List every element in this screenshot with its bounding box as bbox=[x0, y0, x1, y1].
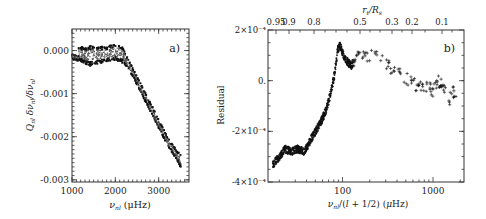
x-tick-label-a: 2000 bbox=[104, 186, 127, 196]
x-tick-label-a: 1000 bbox=[61, 186, 84, 196]
plot-frame-b bbox=[268, 30, 464, 182]
top-tick-label-b: 0.5 bbox=[353, 17, 367, 27]
panel-label-a: a) bbox=[169, 42, 180, 55]
y-axis-label-a: Qnl δνnl/δνnl bbox=[25, 79, 36, 132]
top-tick-label-b: 0.3 bbox=[385, 17, 399, 27]
panel-label-b: b) bbox=[444, 42, 455, 55]
y-tick-label-a: -0.002 bbox=[40, 132, 69, 142]
svg-text:Qnl δνnl/δνnl: Qnl δνnl/δνnl bbox=[25, 79, 36, 132]
top-tick-label-b: 0.1 bbox=[435, 17, 449, 27]
y-tick-label-a: 0.000 bbox=[43, 46, 69, 56]
x-tick-label-b: 1000 bbox=[422, 186, 445, 196]
y-tick-label-a: -0.001 bbox=[40, 89, 69, 99]
chart-a-svg: 0.000-0.001-0.002-0.003 100020003000 a) … bbox=[0, 0, 240, 219]
top-tick-label-b: 0.2 bbox=[405, 17, 419, 27]
x-axis-label-b: νnl/(l + 1/2) (μHz) bbox=[328, 199, 408, 210]
top-tick-label-b: 0.9 bbox=[282, 17, 296, 27]
panel-a: 0.000-0.001-0.002-0.003 100020003000 a) … bbox=[0, 0, 240, 219]
x-axis-label-a: νnl (μHz) bbox=[109, 199, 151, 211]
y-tick-label-b: 0. bbox=[258, 76, 266, 86]
x-tick-label-a: 3000 bbox=[147, 186, 170, 196]
top-axis-label-b: rt/Rs bbox=[362, 5, 382, 16]
top-tick-label-b: 0.95 bbox=[267, 17, 286, 27]
x-tick-label-b: 100 bbox=[334, 186, 351, 196]
y-tick-label-a: -0.003 bbox=[40, 175, 69, 185]
top-tick-label-b: 0.8 bbox=[307, 17, 321, 27]
